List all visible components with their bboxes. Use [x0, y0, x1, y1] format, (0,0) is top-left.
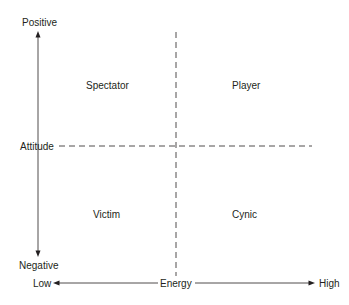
- arrow-right-icon: [309, 281, 316, 286]
- quadrant-player: Player: [232, 80, 260, 91]
- quadrant-diagram: Positive Negative Attitude Low High Ener…: [0, 0, 349, 305]
- quadrant-victim: Victim: [93, 209, 120, 220]
- arrow-down-icon: [36, 251, 41, 258]
- attitude-axis-title: Attitude: [20, 141, 54, 152]
- quadrant-spectator: Spectator: [86, 80, 129, 91]
- quadrant-cynic: Cynic: [232, 209, 257, 220]
- arrow-left-icon: [53, 281, 60, 286]
- energy-axis-title: Energy: [160, 278, 192, 289]
- attitude-negative-label: Negative: [19, 260, 58, 271]
- arrow-up-icon: [36, 31, 41, 38]
- attitude-positive-label: Positive: [22, 17, 57, 28]
- energy-high-label: High: [319, 278, 340, 289]
- energy-low-label: Low: [33, 278, 51, 289]
